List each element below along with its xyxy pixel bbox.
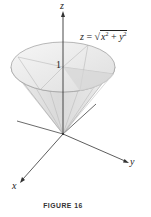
- equation-y-exponent: 2: [124, 31, 127, 37]
- equation-plus: +: [109, 31, 120, 42]
- equation-equals: =: [84, 31, 95, 42]
- y-axis: [63, 134, 125, 161]
- cone-diagram: [0, 0, 151, 217]
- radicand: x2 + y2: [100, 30, 127, 42]
- y-axis-label: y: [130, 157, 134, 167]
- origin-point: [62, 133, 64, 135]
- cone-equation: z = √x2 + y2: [80, 30, 127, 42]
- figure-caption: FIGURE 16: [9, 201, 116, 210]
- x-axis: [23, 134, 63, 179]
- x-axis-label: x: [12, 181, 16, 191]
- y-axis-arrow-icon: [123, 159, 129, 163]
- z-axis-label: z: [60, 1, 64, 11]
- tick-label-one: 1: [56, 60, 61, 70]
- z-axis-arrow-icon: [61, 11, 65, 17]
